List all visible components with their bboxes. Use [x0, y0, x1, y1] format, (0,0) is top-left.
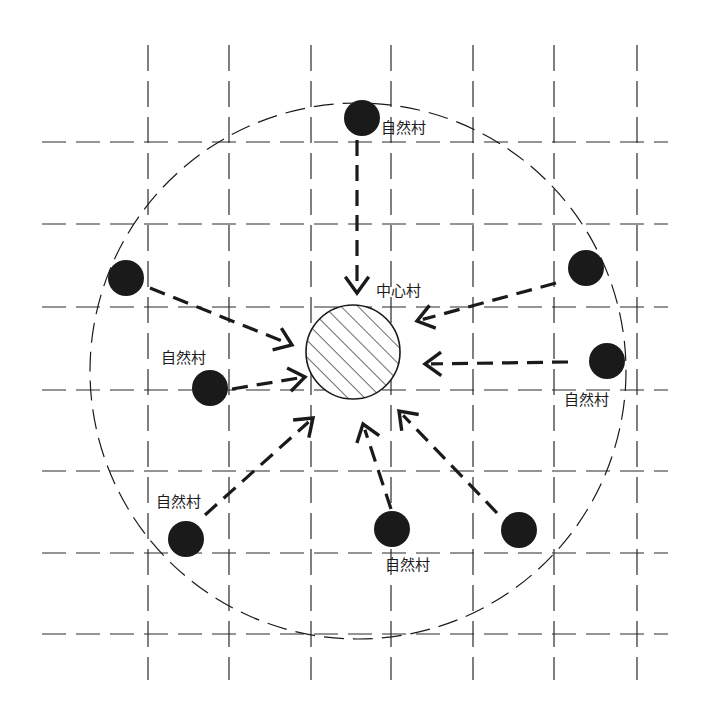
natural-village-label: 自然村: [385, 556, 430, 574]
natural-village-label: 自然村: [381, 119, 426, 137]
arrow-shaft: [205, 422, 309, 515]
natural-village-dot-icon: [108, 260, 144, 296]
flow-arrow: [425, 352, 568, 376]
flow-arrow: [357, 424, 391, 509]
flow-arrow: [399, 411, 497, 513]
natural-village-dot-icon: [374, 511, 410, 547]
flow-arrow: [417, 283, 556, 328]
flow-arrow: [205, 418, 313, 515]
natural-village-dot-icon: [589, 343, 625, 379]
natural-village-dot-icon: [168, 521, 204, 557]
diagram-canvas: 中心村自然村自然村自然村自然村自然村: [0, 0, 709, 719]
arrow-shaft: [150, 288, 286, 343]
central-village-hatched-circle-icon: [306, 305, 400, 399]
natural-village-dot-icon: [568, 250, 604, 286]
natural-village-dot-icon: [344, 100, 380, 136]
arrow-shaft: [431, 362, 568, 364]
central-village-label: 中心村: [376, 282, 421, 300]
arrow-shaft: [423, 283, 556, 319]
flow-arrow: [150, 288, 292, 350]
central-village: [306, 305, 400, 399]
natural-village-label: 自然村: [161, 349, 206, 367]
natural-village-label: 自然村: [564, 391, 609, 409]
natural-village-label: 自然村: [156, 493, 201, 511]
flow-arrow: [345, 140, 369, 293]
natural-village-dot-icon: [501, 512, 537, 548]
arrow-shaft: [365, 430, 391, 509]
arrowhead-icon: [357, 424, 379, 443]
arrow-shaft: [403, 415, 497, 513]
flow-arrow: [232, 368, 305, 391]
arrow-shaft: [232, 378, 299, 389]
central-village-diagram: 中心村自然村自然村自然村自然村自然村: [0, 0, 709, 719]
natural-village-dot-icon: [192, 370, 228, 406]
